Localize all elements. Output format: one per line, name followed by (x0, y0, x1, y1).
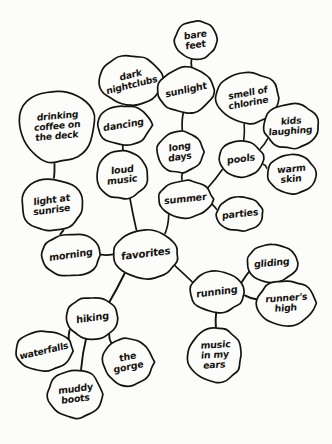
node-warm-skin[interactable]: warm skin (265, 153, 317, 195)
node-summer[interactable]: summer (156, 179, 214, 219)
edge-sunlight-to-long-days (182, 113, 183, 131)
node-label-long-days: long days (166, 140, 194, 164)
node-music-in-my-ears[interactable]: music in my ears (186, 326, 244, 384)
node-label-bare-feet: bare feet (182, 28, 209, 52)
node-label-kids-laughing: kids laughing (267, 115, 316, 138)
node-drinking-coffee[interactable]: drinking coffee on the deck (16, 87, 98, 165)
node-parties[interactable]: parties (215, 196, 265, 232)
node-gliding[interactable]: gliding (245, 243, 299, 283)
node-sunlight[interactable]: sunlight (156, 66, 216, 114)
node-light-at-sunrise[interactable]: light at sunrise (19, 177, 85, 233)
node-morning[interactable]: morning (40, 232, 102, 278)
node-long-days[interactable]: long days (155, 130, 205, 174)
mind-map-canvas: drinking coffee on the decklight at sunr… (0, 0, 332, 444)
node-muddy-boots[interactable]: muddy boots (46, 368, 104, 420)
node-waterfalls[interactable]: waterfalls (13, 330, 75, 372)
node-bare-feet[interactable]: bare feet (173, 20, 219, 60)
node-label-music-in-my-ears: music in my ears (197, 339, 233, 371)
node-label-drinking-coffee: drinking coffee on the deck (31, 109, 82, 143)
node-label-loud-music: loud music (105, 163, 140, 187)
edge-loud-music-to-favorites (130, 198, 137, 230)
edge-drinking-coffee-to-light-at-sunrise (54, 164, 55, 178)
node-label-warm-skin: warm skin (274, 163, 307, 186)
node-loud-music[interactable]: loud music (94, 150, 150, 200)
edge-hiking-to-muddy-boots (81, 339, 86, 370)
node-runners-high[interactable]: runner's high (255, 279, 317, 327)
node-the-gorge[interactable]: the gorge (101, 337, 155, 387)
node-pools[interactable]: pools (217, 140, 265, 178)
edge-smell-of-chlorine-to-pools (244, 124, 245, 141)
node-dancing[interactable]: dancing (95, 104, 153, 146)
node-running[interactable]: running (188, 270, 246, 314)
node-favorites[interactable]: favorites (112, 228, 180, 280)
node-label-runners-high: runner's high (262, 291, 309, 314)
node-kids-laughing[interactable]: kids laughing (262, 102, 320, 150)
node-dark-nightclubs[interactable]: dark nightclubs (97, 54, 165, 106)
